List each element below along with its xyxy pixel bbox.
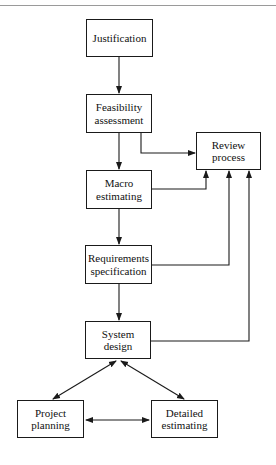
node-label: Detailed: [166, 407, 203, 420]
node-label: Feasibility: [96, 101, 142, 114]
node-label: specification: [90, 265, 146, 278]
connector-layer: [0, 0, 276, 465]
node-label: Project: [35, 407, 66, 420]
node-label: design: [104, 340, 133, 353]
node-label: System: [102, 328, 134, 341]
node-detailed-estimating: Detailed estimating: [151, 400, 218, 438]
node-label: Macro: [105, 177, 134, 190]
node-label: Requirements: [88, 252, 149, 265]
arrow-system-detailed: [121, 361, 184, 399]
node-label: process: [212, 151, 245, 164]
node-label: assessment: [95, 114, 144, 127]
node-label: planning: [31, 419, 70, 432]
node-project-planning: Project planning: [17, 400, 84, 438]
arrow-feasibility-review: [141, 133, 195, 153]
node-label: Review: [212, 139, 246, 152]
arrow-system-project: [53, 361, 116, 399]
node-label: estimating: [96, 190, 142, 203]
arrow-macro-review: [152, 171, 206, 189]
node-justification: Justification: [86, 19, 153, 57]
node-feasibility-assessment: Feasibility assessment: [86, 94, 152, 133]
arrow-system-review: [151, 171, 249, 341]
node-macro-estimating: Macro estimating: [86, 170, 152, 209]
node-requirements-specification: Requirements specification: [85, 245, 152, 284]
flowchart-canvas: Justification Feasibility assessment Rev…: [0, 0, 276, 465]
node-review-process: Review process: [196, 132, 261, 170]
node-label: estimating: [162, 419, 208, 432]
arrow-requirements-review: [152, 171, 229, 265]
node-system-design: System design: [85, 321, 151, 359]
node-label: Justification: [93, 32, 147, 45]
